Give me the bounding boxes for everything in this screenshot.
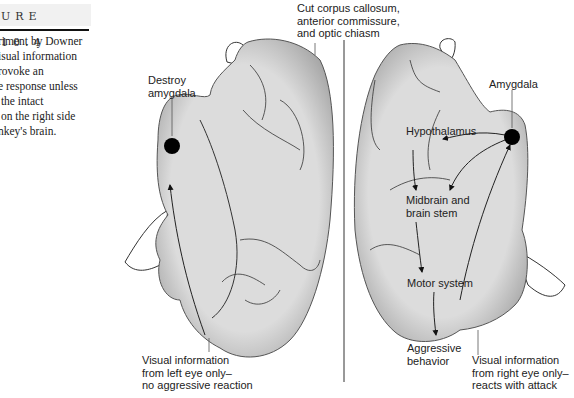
amygdala-label: Amygdala: [489, 78, 538, 91]
brain-diagram: [0, 0, 574, 398]
amygdala-dot: [504, 129, 520, 145]
hypothalamus-label: Hypothalamus: [406, 125, 476, 138]
destroy-amygdala-label: Destroy amygdala: [148, 74, 196, 99]
destroyed-amygdala-dot: [164, 138, 180, 154]
cut-label: Cut corpus callosum, anterior commissure…: [297, 2, 400, 40]
motor-system-label: Motor system: [407, 277, 473, 290]
right-visual-label: Visual information from right eye only– …: [472, 354, 569, 392]
left-visual-label: Visual information from left eye only– n…: [142, 354, 253, 392]
midbrain-label: Midbrain and brain stem: [406, 194, 470, 219]
aggressive-behavior-label: Aggressive behavior: [407, 342, 461, 367]
